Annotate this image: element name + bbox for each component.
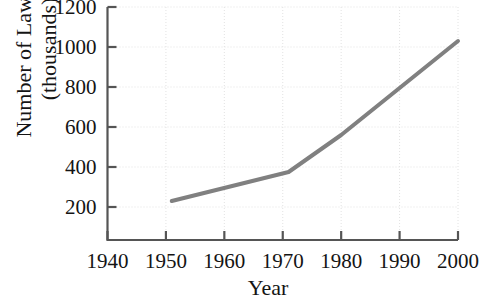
x-tick-label: 1970 — [262, 251, 304, 272]
y-axis-title-line1: Number of Lawyers — [12, 0, 37, 138]
lawyers-line-chart: 20040060080010001200 1940195019601970198… — [0, 0, 481, 298]
x-tick-label: 1990 — [379, 251, 421, 272]
y-tick-label: 200 — [65, 197, 97, 218]
y-axis-title: Number of Lawyers (thousands) — [4, 0, 70, 164]
x-tick-label: 1950 — [145, 251, 187, 272]
x-tick-label: 1960 — [203, 251, 245, 272]
gridlines — [108, 7, 459, 240]
data-series-line — [172, 41, 458, 201]
x-tick-label: 2000 — [437, 251, 479, 272]
y-axis-title-line2: (thousands) — [37, 0, 62, 100]
x-tick-label: 1940 — [87, 251, 129, 272]
x-axis-title: Year — [248, 276, 289, 298]
x-tick-label: 1980 — [320, 251, 362, 272]
